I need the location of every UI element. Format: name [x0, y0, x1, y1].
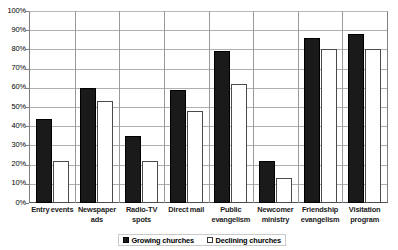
category-separator: [298, 11, 299, 203]
category-separator: [209, 11, 210, 203]
x-axis-category-label: Public evangelism: [209, 205, 254, 224]
bar-declining-churches: [276, 178, 292, 203]
bar-growing-churches: [80, 88, 96, 203]
bar-declining-churches: [321, 49, 337, 203]
x-axis-category-label: Entry events: [30, 205, 75, 215]
category-separator: [119, 11, 120, 203]
y-axis-tick-label: 50%: [0, 103, 26, 111]
bar-series-layer: [30, 11, 387, 203]
x-axis-category-label: Radio-TV spots: [119, 205, 164, 224]
legend-item-declining: Declining churches: [207, 236, 281, 245]
x-axis-labels: Entry eventsNewspaper adsRadio-TV spotsD…: [30, 205, 387, 231]
bar-growing-churches: [259, 161, 275, 203]
x-axis-category-label: Friendship evangelism: [298, 205, 343, 224]
hollow-square-icon: [207, 237, 213, 243]
bar-chart: 100%90%80%70%60%50%40%30%20%10%0% Entry …: [0, 0, 398, 250]
legend-item-growing: Growing churches: [123, 236, 194, 245]
y-axis-tick-label: 0%: [0, 199, 26, 207]
y-axis-tick-label: 70%: [0, 64, 26, 72]
bar-group: [75, 11, 120, 203]
bar-growing-churches: [170, 90, 186, 203]
y-axis-tick-label: 30%: [0, 141, 26, 149]
filled-square-icon: [123, 237, 129, 243]
bar-group: [253, 11, 298, 203]
x-axis-category-label: Newspaper ads: [75, 205, 120, 224]
category-separator: [253, 11, 254, 203]
category-separator: [75, 11, 76, 203]
x-axis-category-label: Visitation program: [342, 205, 387, 224]
y-axis-tick-mark: [25, 203, 29, 204]
y-axis-tick-label: 40%: [0, 122, 26, 130]
bar-growing-churches: [125, 136, 141, 203]
legend-label-growing: Growing churches: [132, 236, 195, 245]
bar-group: [164, 11, 209, 203]
chart-legend: Growing churches Declining churches: [118, 234, 286, 246]
y-axis-tick-label: 60%: [0, 83, 26, 91]
bar-group: [119, 11, 164, 203]
y-axis-tick-label: 20%: [0, 160, 26, 168]
legend-label-declining: Declining churches: [216, 236, 281, 245]
bar-declining-churches: [187, 111, 203, 203]
y-axis-tick-label: 100%: [0, 7, 26, 15]
bar-group: [298, 11, 343, 203]
bar-growing-churches: [36, 119, 52, 203]
category-separator: [164, 11, 165, 203]
y-axis-tick-label: 90%: [0, 26, 26, 34]
y-axis-tick-label: 10%: [0, 179, 26, 187]
x-axis-category-label: Direct mail: [164, 205, 209, 215]
bar-declining-churches: [365, 49, 381, 203]
bar-declining-churches: [53, 161, 69, 203]
bar-group: [209, 11, 254, 203]
bar-growing-churches: [348, 34, 364, 203]
bar-declining-churches: [142, 161, 158, 203]
category-separator: [342, 11, 343, 203]
bar-declining-churches: [231, 84, 247, 203]
bar-group: [30, 11, 75, 203]
x-axis-category-label: Newcomer ministry: [253, 205, 298, 224]
bar-group: [342, 11, 387, 203]
y-axis-tick-label: 80%: [0, 45, 26, 53]
bar-declining-churches: [97, 101, 113, 203]
bar-growing-churches: [214, 51, 230, 203]
bar-growing-churches: [304, 38, 320, 203]
